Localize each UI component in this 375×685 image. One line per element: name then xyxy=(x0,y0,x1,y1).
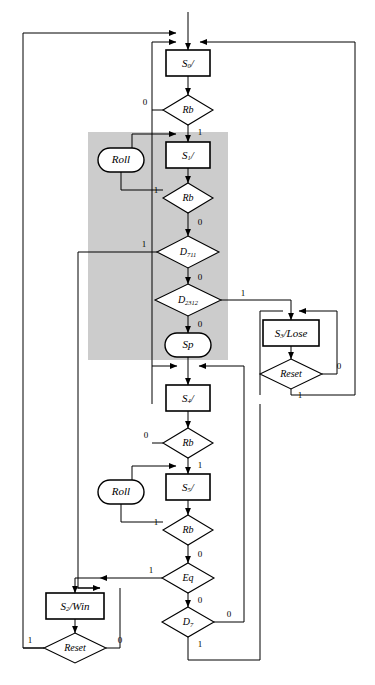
edge-label-reset2-1: 1 xyxy=(28,635,33,645)
edge-label-rb2-1: 1 xyxy=(154,185,159,195)
decision-reset-lose-label: Reset xyxy=(279,368,302,379)
output-roll-1-label: Roll xyxy=(111,153,130,165)
decision-rb-4-label: Rb xyxy=(181,524,193,535)
edge-label-d2312-0: 0 xyxy=(198,319,203,329)
decision-rb-3-label: Rb xyxy=(181,437,193,448)
decision-d7: D7 xyxy=(162,607,214,637)
decision-reset-lose: Reset xyxy=(260,359,322,389)
edge-label-eq-0: 0 xyxy=(198,595,203,605)
state-box-s5: S5/ xyxy=(166,474,210,500)
decision-eq-label: Eq xyxy=(181,572,193,583)
edge-label-d711-1: 1 xyxy=(142,239,147,249)
edge-label-eq-1: 1 xyxy=(149,565,154,575)
edge-label-rb1-0: 0 xyxy=(143,97,148,107)
decision-reset-win: Reset xyxy=(44,633,106,663)
edge-label-rb2-0: 0 xyxy=(198,217,203,227)
decision-rb-2-label: Rb xyxy=(181,192,193,203)
state-box-s3-lose-label: S3/Lose xyxy=(275,326,308,339)
state-box-s1: S1/ xyxy=(166,142,210,168)
edge-label-rb1-1: 1 xyxy=(198,127,203,137)
flowchart-svg: S0/RbRollS1/RbD711D2312SpS3/LoseResetS4/… xyxy=(0,0,375,685)
edge-label-d7-0: 0 xyxy=(227,609,232,619)
state-box-s0: S0/ xyxy=(166,50,210,76)
edge-label-d2312-1: 1 xyxy=(241,288,246,298)
edge-label-reset1-1: 1 xyxy=(298,390,303,400)
edge-label-reset2-0: 0 xyxy=(118,635,123,645)
decision-rb-1-label: Rb xyxy=(181,104,193,115)
output-sp-label: Sp xyxy=(183,338,195,350)
output-sp: Sp xyxy=(165,333,211,357)
decision-rb-1: Rb xyxy=(163,95,213,125)
output-roll-2-label: Roll xyxy=(111,485,130,497)
state-box-s3-lose: S3/Lose xyxy=(263,320,319,346)
edge-label-rb4-1: 1 xyxy=(154,517,159,527)
edge-label-rb3-1: 1 xyxy=(198,460,203,470)
edge-label-d7-1: 1 xyxy=(198,639,203,649)
edge-label-rb3-0: 0 xyxy=(144,430,149,440)
state-box-s2-win: S2/Win xyxy=(46,593,104,619)
decision-rb-3: Rb xyxy=(163,428,213,458)
flowchart-canvas: S0/RbRollS1/RbD711D2312SpS3/LoseResetS4/… xyxy=(0,0,375,685)
state-box-s2-win-label: S2/Win xyxy=(61,599,90,612)
output-roll-2: Roll xyxy=(98,480,144,504)
state-box-s4: S4/ xyxy=(166,385,210,411)
node-layer: S0/RbRollS1/RbD711D2312SpS3/LoseResetS4/… xyxy=(44,50,322,663)
edge-label-reset1-0: 0 xyxy=(337,361,342,371)
decision-eq: Eq xyxy=(162,563,214,593)
edge-label-rb4-0: 0 xyxy=(198,549,203,559)
decision-reset-win-label: Reset xyxy=(63,642,86,653)
output-roll-1: Roll xyxy=(98,148,144,172)
edge-label-d711-0: 0 xyxy=(198,272,203,282)
decision-rb-4: Rb xyxy=(163,515,213,545)
